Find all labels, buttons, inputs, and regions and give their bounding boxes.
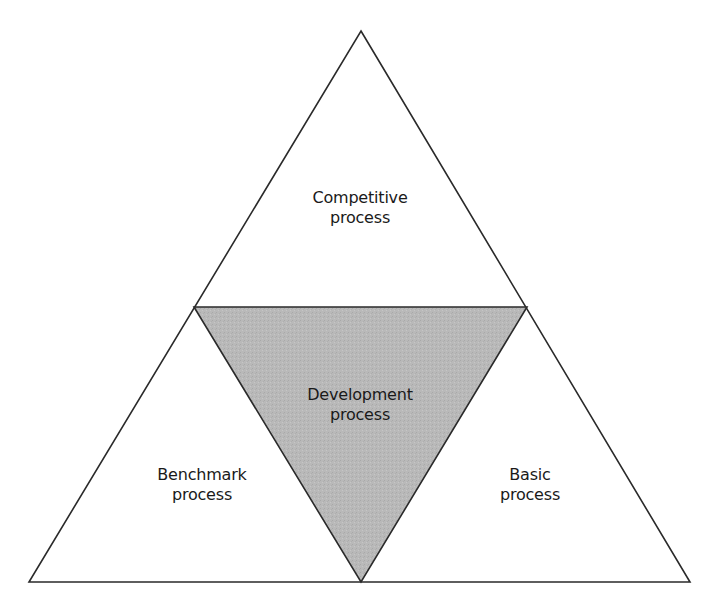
- label-benchmark-process: Benchmark process: [122, 465, 282, 505]
- triangle-diagram: [0, 0, 720, 607]
- label-line: Competitive: [280, 188, 440, 208]
- label-line: Benchmark: [122, 465, 282, 485]
- label-line: process: [450, 485, 610, 505]
- label-line: Development: [280, 385, 440, 405]
- label-basic-process: Basic process: [450, 465, 610, 505]
- label-line: process: [280, 208, 440, 228]
- label-line: process: [122, 485, 282, 505]
- label-line: process: [280, 405, 440, 425]
- label-competitive-process: Competitive process: [280, 188, 440, 228]
- label-line: Basic: [450, 465, 610, 485]
- label-development-process: Development process: [280, 385, 440, 425]
